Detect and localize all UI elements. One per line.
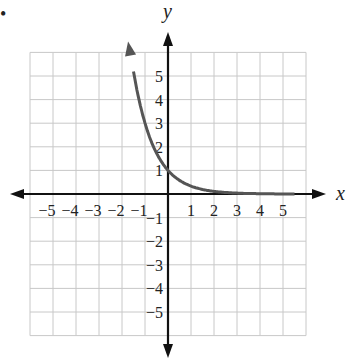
svg-text:1: 1 [155,162,163,179]
svg-text:5: 5 [279,202,287,219]
svg-text:−1: −1 [130,202,147,219]
svg-text:−2: −2 [146,233,163,250]
svg-text:3: 3 [155,115,163,132]
svg-text:−3: −3 [146,257,163,274]
y-axis-up-arrow-icon [163,32,173,46]
svg-text:3: 3 [233,202,241,219]
svg-text:4: 4 [155,92,163,109]
x-axis-right-arrow-icon [312,189,326,199]
problem-bullet: • [0,4,6,24]
svg-text:4: 4 [256,202,264,219]
svg-text:−5: −5 [38,202,55,219]
svg-text:2: 2 [210,202,218,219]
y-axis-label: y [161,0,172,23]
svg-text:−5: −5 [146,304,163,321]
svg-text:−2: −2 [107,202,124,219]
svg-text:−1: −1 [146,210,163,227]
graph: −5−4−3−2−11234554321−1−2−3−4−5 x y • [0,0,348,362]
y-axis-down-arrow-icon [163,344,173,358]
x-axis-left-arrow-icon [10,189,24,199]
svg-text:−4: −4 [146,280,163,297]
svg-text:1: 1 [187,202,195,219]
curve-arrow-icon [125,41,136,56]
svg-text:−4: −4 [61,202,78,219]
svg-text:5: 5 [155,68,163,85]
svg-text:−3: −3 [84,202,101,219]
x-axis-label: x [335,182,345,204]
